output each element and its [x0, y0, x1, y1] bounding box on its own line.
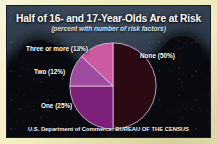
chart-content: Half of 16- and 17-Year-Olds Are at Risk… — [7, 6, 210, 137]
pie-label-none: None (50%) — [140, 52, 175, 59]
pie-label-two: Two (12%) — [34, 68, 65, 75]
census-risk-graphic: Half of 16- and 17-Year-Olds Are at Risk… — [0, 0, 217, 144]
source-attribution: U.S. Department of Commerce: BUREAU OF T… — [7, 126, 210, 132]
pie-slice[interactable]: One (25%) — [70, 86, 113, 129]
chart-panel: Half of 16- and 17-Year-Olds Are at Risk… — [6, 5, 211, 138]
pie-label-one: One (25%) — [41, 102, 72, 109]
pie-label-three-or-more: Three or more (13%) — [26, 45, 88, 52]
